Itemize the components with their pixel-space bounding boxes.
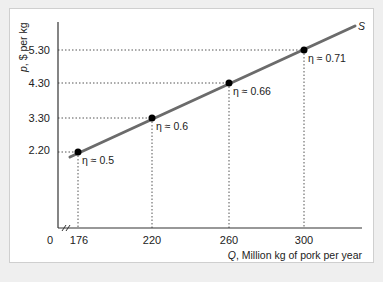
elasticity-label-2: η ≈ 0.66 — [233, 85, 271, 97]
x-axis-title: Q, Million kg of pork per year — [228, 249, 363, 261]
x-origin-label: 0 — [47, 234, 53, 246]
curve-label: S — [358, 20, 365, 32]
supply-curve — [70, 26, 355, 157]
y-axis-title: p, $ per kg — [17, 22, 29, 73]
supply-chart: η ≈ 0.5 η ≈ 0.6 η ≈ 0.66 η ≈ 0.71 S 2.20… — [0, 0, 383, 282]
y-tick-label: 5.30 — [29, 44, 50, 56]
elasticity-label-0: η ≈ 0.5 — [82, 154, 114, 166]
guide-lines — [58, 50, 304, 228]
point-300 — [301, 47, 308, 54]
x-tick-label: 260 — [220, 234, 238, 246]
x-tick-label: 300 — [295, 234, 313, 246]
elasticity-label-3: η ≈ 0.71 — [308, 52, 346, 64]
point-176 — [75, 149, 82, 156]
x-tick-label: 176 — [70, 234, 88, 246]
y-tick-label: 3.30 — [29, 112, 50, 124]
x-tick-label: 220 — [143, 234, 161, 246]
point-220 — [149, 115, 156, 122]
y-tick-label: 4.30 — [29, 77, 50, 89]
elasticity-label-1: η ≈ 0.6 — [156, 120, 188, 132]
point-260 — [226, 80, 233, 87]
y-tick-label: 2.20 — [29, 144, 50, 156]
